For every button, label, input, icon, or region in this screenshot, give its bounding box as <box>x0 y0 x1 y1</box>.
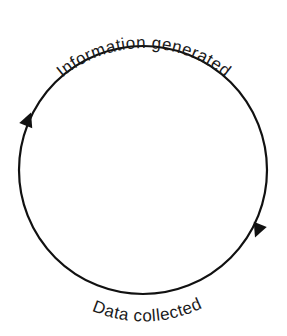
arrow-up-icon <box>19 110 37 128</box>
top-label-text: Information generated <box>53 33 235 81</box>
cycle-svg: Information generated Data collected <box>0 0 287 336</box>
cycle-circle <box>19 46 267 294</box>
top-label: Information generated <box>53 33 235 81</box>
bottom-label: Data collected <box>90 294 205 326</box>
cycle-diagram: Information generated Data collected <box>0 0 287 336</box>
bottom-label-text: Data collected <box>90 294 205 326</box>
